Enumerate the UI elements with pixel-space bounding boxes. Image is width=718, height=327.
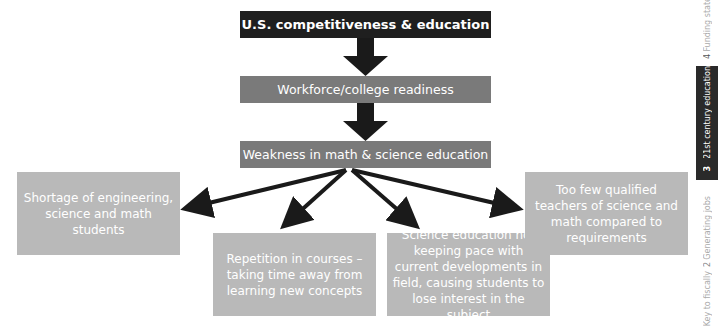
- workforce-box-label: Workforce/college readiness: [277, 82, 453, 97]
- outcome-repetition-box: Repetition in courses – taking time away…: [213, 233, 376, 316]
- side-tab-text: Funding state: [703, 0, 712, 51]
- workforce-box: Workforce/college readiness: [240, 76, 491, 103]
- side-tab-1-label[interactable]: Key to fiscally: [696, 275, 718, 323]
- outcome-label: Repetition in courses – taking time away…: [217, 251, 372, 299]
- side-tab-4-label[interactable]: Funding state: [696, 0, 718, 48]
- side-tab-text: Generating jobs: [703, 196, 712, 260]
- side-tab-4-number[interactable]: 4: [696, 48, 718, 66]
- top-box-label: U.S. competitiveness & education: [242, 17, 490, 32]
- outcome-shortage-box: Shortage of engineering, science and mat…: [17, 172, 180, 255]
- side-tab-2-label[interactable]: Generating jobs: [696, 200, 718, 255]
- side-tab-text: Key to fiscally: [703, 271, 712, 326]
- weakness-box: Weakness in math & science education: [240, 141, 491, 168]
- side-tab-3-label[interactable]: 21st century education: [696, 66, 718, 158]
- weakness-box-label: Weakness in math & science education: [243, 147, 489, 162]
- outcome-label: Shortage of engineering, science and mat…: [21, 190, 176, 238]
- side-tab-text: 21st century education: [703, 66, 712, 159]
- side-tab-number: 3: [703, 166, 712, 172]
- outcome-label: Science education not keeping pace with …: [391, 227, 546, 323]
- side-tab-3-number[interactable]: 3: [696, 158, 718, 180]
- side-tab-number: 2: [703, 262, 712, 267]
- top-box: U.S. competitiveness & education: [240, 11, 491, 38]
- side-tab-number: 4: [703, 54, 712, 59]
- outcome-label: Too few qualified teachers of science an…: [529, 182, 684, 246]
- outcome-teachers-box: Too few qualified teachers of science an…: [525, 172, 688, 255]
